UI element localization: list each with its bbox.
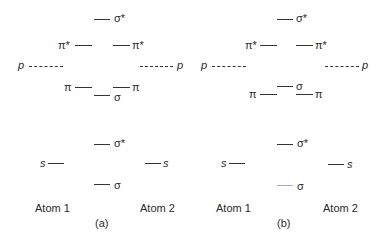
s-right-label: s xyxy=(347,159,353,170)
panel-caption: (a) xyxy=(95,218,108,229)
panel-caption: (b) xyxy=(277,218,290,229)
sigma-star-s-level xyxy=(277,144,293,145)
p-left-label: p xyxy=(18,60,24,71)
sigma-star-p-level xyxy=(277,19,293,20)
pi-star-left-level xyxy=(75,45,92,46)
p-right-label: p xyxy=(177,60,183,71)
sigma-p-label: σ xyxy=(114,92,121,103)
p-left-label: p xyxy=(201,60,207,71)
pi-right-label: π xyxy=(132,82,140,93)
p-left-orbitals xyxy=(212,66,246,67)
pi-star-right-level xyxy=(296,45,313,46)
s-left-label: s xyxy=(221,158,227,169)
atom-2-label: Atom 2 xyxy=(323,203,358,214)
sigma-p-level xyxy=(94,95,110,96)
atom-1-label: Atom 1 xyxy=(35,203,70,214)
pi-star-right-label: π* xyxy=(315,40,327,51)
s-left-label: s xyxy=(40,158,46,169)
p-right-label: p xyxy=(362,60,368,71)
p-left-orbitals xyxy=(29,66,63,67)
pi-left-level xyxy=(260,94,277,95)
pi-left-level xyxy=(75,87,92,88)
s-right-label: s xyxy=(163,158,169,169)
atom-1-label: Atom 1 xyxy=(216,203,251,214)
pi-star-left-level xyxy=(260,45,277,46)
sigma-p-label: σ xyxy=(296,81,303,92)
atom-2-label: Atom 2 xyxy=(140,203,175,214)
sigma-star-s-label: σ* xyxy=(114,138,125,149)
pi-right-label: π xyxy=(315,89,323,100)
s-left-level xyxy=(229,163,245,164)
pi-right-level xyxy=(113,87,130,88)
sigma-s-level xyxy=(277,185,293,186)
p-right-orbitals xyxy=(325,66,359,67)
sigma-star-p-level xyxy=(94,19,110,20)
s-right-level xyxy=(328,164,344,165)
sigma-p-level xyxy=(277,86,293,87)
pi-left-label: π xyxy=(249,89,257,100)
pi-right-level xyxy=(296,94,313,95)
sigma-star-s-label: σ* xyxy=(297,138,308,149)
pi-star-right-label: π* xyxy=(132,40,144,51)
s-left-level xyxy=(48,163,64,164)
pi-left-label: π xyxy=(64,82,72,93)
sigma-s-label: σ xyxy=(297,181,304,192)
sigma-star-s-level xyxy=(94,144,110,145)
pi-star-left-label: π* xyxy=(245,40,257,51)
pi-star-right-level xyxy=(113,45,130,46)
sigma-s-label: σ xyxy=(114,180,121,191)
p-right-orbitals xyxy=(140,66,173,67)
s-right-level xyxy=(145,163,161,164)
sigma-s-level xyxy=(94,184,110,185)
pi-star-left-label: π* xyxy=(58,40,70,51)
sigma-star-p-label: σ* xyxy=(114,13,125,24)
sigma-star-p-label: σ* xyxy=(296,13,307,24)
